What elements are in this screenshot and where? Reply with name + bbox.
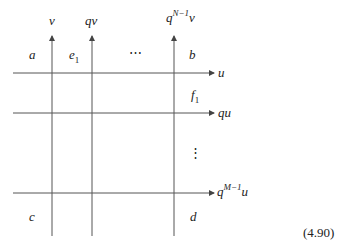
label-u: u [218, 66, 225, 79]
label-sub: 1 [195, 95, 200, 105]
label-v: v [49, 14, 55, 27]
label-base: q [166, 10, 173, 25]
label-sup: M−1 [224, 182, 242, 192]
grid-diagram [0, 0, 346, 247]
region-c: c [29, 210, 35, 223]
region-e1: e1 [69, 48, 79, 65]
region-d: d [190, 210, 197, 223]
label-tail: u [242, 184, 249, 199]
label-tail: v [189, 10, 195, 25]
label-qv: qv [85, 14, 97, 27]
label-qu: qu [218, 106, 231, 119]
equation-number: (4.90) [303, 226, 334, 239]
label-sub: 1 [75, 55, 80, 65]
vertical-ellipsis: ⋮ [189, 146, 202, 159]
horizontal-ellipsis: ⋯ [129, 46, 142, 59]
label-base: q [217, 184, 224, 199]
label-qN-1v: qN−1v [166, 10, 195, 24]
label-qM-1u: qM−1u [217, 184, 248, 198]
label-sup: N−1 [173, 8, 190, 18]
region-a: a [29, 48, 36, 61]
region-f1: f1 [191, 88, 199, 105]
region-b: b [189, 48, 196, 61]
